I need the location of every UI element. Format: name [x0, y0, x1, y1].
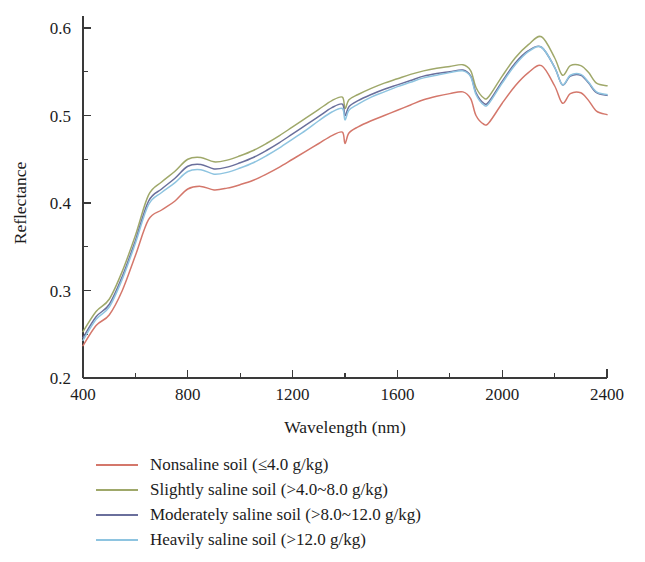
y-tick-label: 0.2 — [50, 369, 71, 388]
x-tick-label: 800 — [175, 385, 201, 404]
y-tick-label: 0.5 — [50, 107, 71, 126]
y-axis-tick-labels: 0.20.30.40.50.6 — [50, 19, 72, 388]
x-axis-title: Wavelength (nm) — [284, 417, 406, 437]
legend-item[interactable]: Heavily saline soil (>12.0 g/kg) — [96, 527, 616, 552]
series-line — [83, 46, 607, 340]
y-tick-label: 0.4 — [50, 194, 72, 213]
x-tick-label: 1600 — [380, 385, 414, 404]
x-tick-label: 2400 — [590, 385, 624, 404]
chart-series-lines — [83, 36, 607, 345]
legend-item[interactable]: Slightly saline soil (>4.0~8.0 g/kg) — [96, 477, 616, 502]
legend-color-swatch — [96, 514, 138, 516]
legend-color-swatch — [96, 464, 138, 466]
legend-item-label: Moderately saline soil (>8.0~12.0 g/kg) — [150, 506, 421, 523]
series-line — [83, 36, 607, 331]
y-tick-label: 0.6 — [50, 19, 71, 38]
legend-color-swatch — [96, 489, 138, 491]
legend-item[interactable]: Nonsaline soil (≤4.0 g/kg) — [96, 452, 616, 477]
x-tick-label: 1200 — [276, 385, 310, 404]
chart-axes — [83, 16, 607, 378]
x-tick-label: 2000 — [485, 385, 519, 404]
x-tick-label: 400 — [70, 385, 96, 404]
axis-ticks — [83, 28, 607, 378]
legend-color-swatch — [96, 539, 138, 541]
legend-item-label: Heavily saline soil (>12.0 g/kg) — [150, 531, 366, 548]
legend-item-label: Nonsaline soil (≤4.0 g/kg) — [150, 456, 328, 473]
x-axis-tick-labels: 4008001200160020002400 — [70, 385, 624, 404]
spectral-reflectance-figure: 4008001200160020002400 0.20.30.40.50.6 W… — [0, 0, 645, 562]
legend-item-label: Slightly saline soil (>4.0~8.0 g/kg) — [150, 481, 388, 498]
chart-legend: Nonsaline soil (≤4.0 g/kg)Slightly salin… — [96, 452, 616, 552]
y-axis-title: Reflectance — [10, 161, 30, 244]
legend-item[interactable]: Moderately saline soil (>8.0~12.0 g/kg) — [96, 502, 616, 527]
reflectance-line-chart: 4008001200160020002400 0.20.30.40.50.6 W… — [0, 0, 645, 450]
y-tick-label: 0.3 — [50, 282, 71, 301]
